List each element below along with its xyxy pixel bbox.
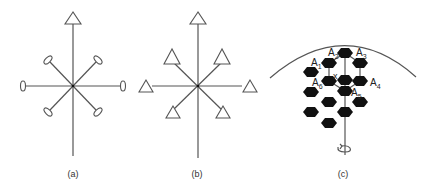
panel-a: (a) [21, 12, 126, 179]
upper-left-triangle-icon [164, 49, 180, 64]
rotation-arrow-icon [338, 144, 351, 152]
label-a4: A4 [370, 77, 381, 90]
diagram-canvas: (a) (b) [0, 0, 434, 190]
atom [303, 107, 319, 117]
atom [321, 118, 337, 128]
panel-c: A2 A1 A3 A4 A5 A6 x (c) [270, 46, 416, 179]
caption-b: (b) [192, 169, 203, 179]
label-x: x [333, 71, 338, 81]
left-triangle-icon [139, 80, 153, 92]
panel-b: (b) [139, 12, 257, 179]
right-triangle-icon [243, 80, 257, 92]
caption-a: (a) [68, 169, 79, 179]
top-triangle-icon [65, 12, 81, 24]
atom [337, 107, 353, 117]
center-dot [197, 85, 200, 88]
atom [303, 87, 319, 97]
atom [303, 67, 319, 77]
right-ellipse-icon [121, 81, 126, 91]
atom-center [337, 75, 353, 85]
atom [321, 97, 337, 107]
lower-left-triangle-icon [166, 106, 180, 118]
left-ellipse-icon [21, 81, 26, 91]
lower-right-triangle-icon [216, 106, 230, 118]
upper-right-triangle-icon [214, 49, 230, 64]
top-triangle-icon [190, 12, 206, 24]
center-dot [72, 85, 75, 88]
caption-c: (c) [338, 169, 349, 179]
